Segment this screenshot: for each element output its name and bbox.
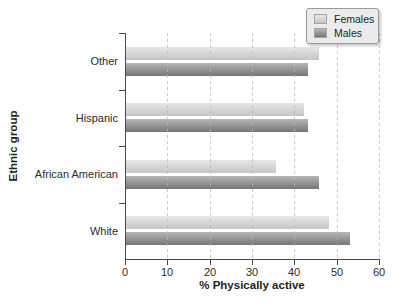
x-tick-label: 50 [322, 266, 352, 278]
females-swatch [314, 14, 327, 24]
x-axis-tick [294, 260, 295, 265]
females-bar [126, 160, 276, 173]
gridline [167, 33, 168, 259]
females-bar [126, 216, 329, 229]
y-axis-tick [119, 203, 125, 204]
gridline [379, 33, 380, 259]
y-axis-tick [119, 146, 125, 147]
y-axis-tick [119, 33, 125, 34]
category-label: African American [0, 166, 118, 182]
males-swatch [314, 28, 327, 38]
males-bar [126, 63, 308, 76]
females-bar [126, 47, 319, 60]
gridline [337, 33, 338, 259]
males-bar [126, 176, 319, 189]
x-tick-label: 30 [237, 266, 267, 278]
males-bar [126, 232, 350, 245]
legend-label-females: Females [334, 13, 374, 25]
x-axis-tick [337, 260, 338, 265]
legend-label-males: Males [334, 27, 362, 39]
category-label: Other [0, 53, 118, 69]
bar-chart-figure: Ethnic group % Physically active OtherHi… [0, 0, 399, 306]
legend-item-males: Males [314, 27, 378, 39]
y-axis-tick [119, 90, 125, 91]
x-tick-label: 20 [195, 266, 225, 278]
x-axis-tick [252, 260, 253, 265]
x-axis-title: % Physically active [125, 279, 379, 291]
x-axis-tick [167, 260, 168, 265]
x-tick-label: 10 [152, 266, 182, 278]
x-tick-label: 0 [110, 266, 140, 278]
x-tick-label: 60 [364, 266, 394, 278]
legend: Females Males [306, 8, 379, 44]
gridline [252, 33, 253, 259]
x-axis-tick [125, 260, 126, 265]
males-bar [126, 119, 308, 132]
gridline [210, 33, 211, 259]
category-label: Hispanic [0, 110, 118, 126]
x-axis-tick [210, 260, 211, 265]
x-axis-tick [379, 260, 380, 265]
legend-item-females: Females [314, 13, 378, 25]
gridline [294, 33, 295, 259]
category-label: White [0, 223, 118, 239]
x-tick-label: 40 [279, 266, 309, 278]
females-bar [126, 103, 304, 116]
